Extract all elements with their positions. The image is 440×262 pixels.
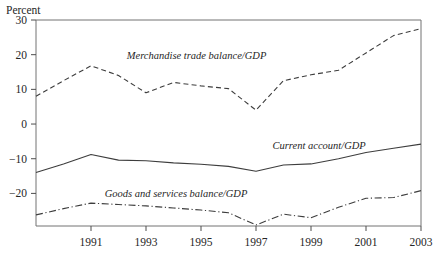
series-label: Current account/GDP xyxy=(273,140,367,151)
x-tick-label: 1995 xyxy=(190,236,213,248)
x-tick-label: 1993 xyxy=(135,236,158,248)
series-label: Goods and services balance/GDP xyxy=(105,188,248,199)
series-line xyxy=(36,29,421,111)
y-tick-label: −20 xyxy=(9,187,27,199)
y-axis-tick-labels: 3020100−10−20 xyxy=(9,14,27,199)
y-tick-label: −10 xyxy=(9,153,27,165)
x-tick-label: 2001 xyxy=(355,236,378,248)
y-tick-label: 10 xyxy=(16,83,28,95)
chart-figure: 3020100−10−20 19911993199519971999200120… xyxy=(0,0,440,262)
y-axis-title: Percent xyxy=(6,4,41,16)
x-axis-tick-labels: 1991199319951997199920012003 xyxy=(80,236,433,248)
x-tick-label: 1999 xyxy=(300,236,323,248)
x-tick-label: 2003 xyxy=(410,236,433,248)
series-label: Merchandise trade balance/GDP xyxy=(126,50,267,61)
line-chart: 3020100−10−20 19911993199519971999200120… xyxy=(0,0,440,262)
x-axis-ticks xyxy=(91,226,421,231)
y-tick-label: 0 xyxy=(21,118,27,130)
x-tick-label: 1991 xyxy=(80,236,103,248)
y-tick-label: 20 xyxy=(16,49,28,61)
x-tick-label: 1997 xyxy=(245,236,268,248)
y-axis-ticks xyxy=(31,20,36,193)
